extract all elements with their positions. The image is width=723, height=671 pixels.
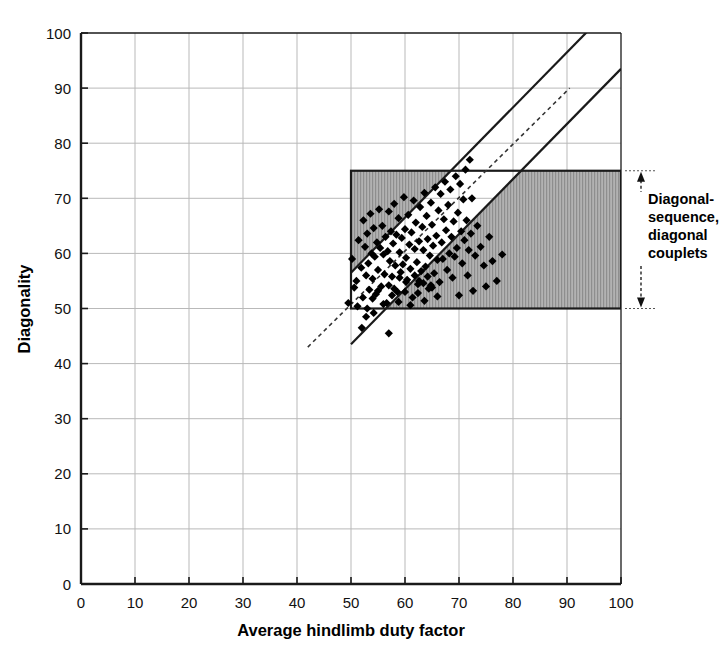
chart-canvas: 0102030405060708090100 01020304050607080… [0, 0, 723, 671]
y-tick-label: 0 [63, 576, 71, 593]
y-tick-label: 60 [54, 245, 71, 262]
y-tick-label: 90 [54, 80, 71, 97]
x-tick-label: 30 [235, 594, 252, 611]
figure-background [0, 0, 723, 671]
x-axis-title: Average hindlimb duty factor [237, 621, 465, 639]
annotation-line-3: diagonal [648, 227, 708, 243]
y-tick-label: 30 [54, 410, 71, 427]
scatter-plot-figure: 0102030405060708090100 01020304050607080… [0, 0, 723, 671]
x-tick-label: 0 [77, 594, 85, 611]
y-tick-label: 50 [54, 300, 71, 317]
x-tick-label: 20 [181, 594, 198, 611]
y-tick-label: 10 [54, 520, 71, 537]
x-tick-label: 90 [559, 594, 576, 611]
annotation-line-1: Diagonal- [648, 191, 714, 207]
x-tick-label: 10 [127, 594, 144, 611]
annotation-line-4: couplets [648, 245, 708, 261]
x-tick-label: 80 [505, 594, 522, 611]
y-tick-label: 70 [54, 190, 71, 207]
y-tick-label: 20 [54, 465, 71, 482]
x-tick-label: 50 [343, 594, 360, 611]
x-tick-label: 100 [608, 594, 633, 611]
y-tick-label: 100 [46, 25, 71, 42]
annotation-line-2: sequence, [648, 209, 719, 225]
x-tick-label: 40 [289, 594, 306, 611]
x-tick-label: 60 [397, 594, 414, 611]
y-tick-label: 40 [54, 355, 71, 372]
x-tick-label: 70 [451, 594, 468, 611]
y-axis-title: Diagonality [15, 264, 33, 354]
y-tick-label: 80 [54, 135, 71, 152]
